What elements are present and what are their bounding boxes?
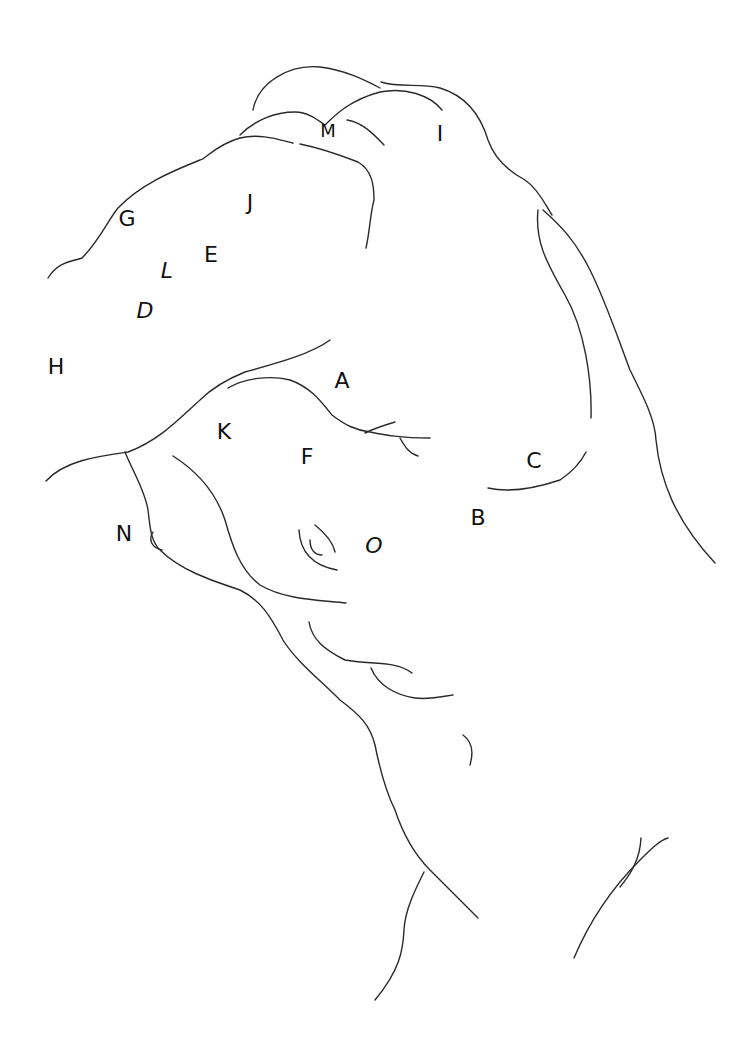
outline-drawing [0,0,754,1062]
label-k: K [217,421,231,443]
outline-m-inner [347,120,384,145]
outline-m-ridge [240,91,442,135]
label-m: M [320,122,336,140]
label-o: O [365,535,382,557]
outline-bottom-right-a [574,838,668,958]
outline-o-swirl-mid [315,525,335,552]
label-f: F [301,446,314,468]
outline-o-swirl-outer [299,530,337,570]
label-j: J [247,192,254,214]
outline-o-swirl-inner [310,540,322,555]
label-a: A [334,370,349,392]
outline-a-lower [228,378,430,438]
label-h: H [48,356,65,378]
label-i: I [437,123,444,145]
outline-a-upper [46,340,330,481]
outline-top-cap [253,67,380,110]
outline-n-contour [125,452,478,918]
outline-top-cap-right [381,82,552,215]
outline-n-loop [151,532,162,550]
anatomical-figure: A B C D E F G H I J K L M N O [0,0,754,1062]
label-l: L [161,260,173,282]
label-n: N [116,523,132,545]
outline-a-tick2 [400,438,418,456]
outline-lower-curve1 [309,622,412,673]
outline-right-outer [543,210,715,563]
label-b: B [470,507,485,529]
label-d: D [137,300,154,322]
outline-lower-tick [463,735,472,765]
label-c: C [526,450,541,472]
label-e: E [204,244,218,266]
outline-j-contour [240,136,374,248]
outline-right-inner [537,210,591,418]
outline-a-tick1 [365,422,395,433]
outline-bottom-left [375,872,424,1000]
label-g: G [118,208,135,230]
